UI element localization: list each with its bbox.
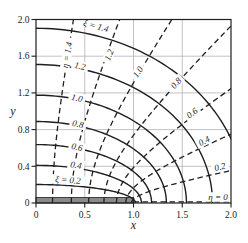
y-tick-label: 2.0 (18, 15, 30, 25)
elliptic-coordinates-chart: ξ = 1.41.21.00.80.60.4ξ = 0.2η = 1.41.21… (0, 0, 248, 243)
y-tick-label: 0.4 (18, 162, 30, 172)
y-tick-label: 0 (25, 198, 30, 208)
y-axis-title: y (9, 104, 16, 118)
curves-group (36, 6, 246, 203)
eta-hyperbola-curve (116, 80, 243, 203)
y-tick-label: 1.2 (18, 88, 30, 98)
y-tick-label: 0.8 (18, 125, 30, 135)
figure-container: ξ = 1.41.21.00.80.60.4ξ = 0.2η = 1.41.21… (0, 0, 248, 243)
y-tick-label: 1.6 (18, 51, 30, 61)
x-tick-label: 2.0 (225, 210, 237, 220)
curve-label: ξ = 0.2 (55, 174, 82, 186)
curve-label: η = 0 (208, 192, 228, 202)
eta-hyperbola-curve (71, 9, 123, 203)
curve-label: ξ = 1.4 (82, 18, 110, 34)
curve-label: 0.4 (70, 159, 83, 171)
x-tick-label: 0.5 (79, 210, 91, 220)
x-tick-label: 0 (34, 210, 39, 220)
eta-hyperbola-curve (104, 13, 243, 203)
xi-ellipse-curve (36, 122, 166, 203)
x-tick-label: 1.5 (176, 210, 188, 220)
focal-slit (36, 198, 134, 204)
x-axis-title: x (130, 218, 137, 232)
